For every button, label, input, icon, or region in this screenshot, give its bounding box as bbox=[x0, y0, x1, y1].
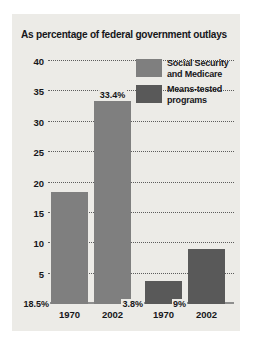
x-tick-label: 1970 bbox=[153, 309, 174, 320]
bar-value-label: 18.5% bbox=[22, 299, 50, 309]
y-tick-label: 15 bbox=[33, 207, 44, 218]
gridline-25: 25 bbox=[48, 151, 234, 152]
y-tick-label: 35 bbox=[33, 86, 44, 97]
y-tick-label: 5 bbox=[39, 268, 44, 279]
legend-item-label: Social Security and Medicare bbox=[167, 58, 229, 79]
bar-social-security-1970[interactable]: 18.5% 1970 bbox=[51, 192, 88, 304]
legend-label-line2: programs bbox=[167, 95, 207, 105]
gridline-30: 30 bbox=[48, 121, 234, 122]
x-tick-label: 2002 bbox=[196, 309, 217, 320]
legend-item-label: Means-tested programs bbox=[167, 84, 222, 105]
y-tick-label: 10 bbox=[33, 238, 44, 249]
y-tick-label: 25 bbox=[33, 147, 44, 158]
legend-label-line1: Social Security bbox=[167, 58, 229, 68]
y-tick-label: 20 bbox=[33, 177, 44, 188]
bar-social-security-2002[interactable]: 33.4% 2002 bbox=[94, 101, 131, 304]
chart-title: As percentage of federal government outl… bbox=[21, 28, 227, 40]
y-tick-label: 40 bbox=[33, 56, 44, 67]
chart-legend: Social Security and Medicare Means-teste… bbox=[136, 58, 240, 110]
legend-item-social-security[interactable]: Social Security and Medicare bbox=[136, 58, 240, 79]
bar-value-label: 3.8% bbox=[121, 299, 144, 309]
legend-label-line2: and Medicare bbox=[167, 69, 222, 79]
bar-means-tested-2002[interactable]: 9% 2002 bbox=[188, 249, 225, 304]
legend-swatch-icon bbox=[136, 59, 162, 77]
legend-item-means-tested[interactable]: Means-tested programs bbox=[136, 84, 240, 105]
bar-value-label: 9% bbox=[172, 299, 187, 309]
chart-panel: As percentage of federal government outl… bbox=[12, 14, 240, 331]
legend-swatch-icon bbox=[136, 85, 162, 103]
x-tick-label: 1970 bbox=[59, 309, 80, 320]
legend-label-line1: Means-tested bbox=[167, 84, 222, 94]
x-tick-label: 2002 bbox=[102, 309, 123, 320]
bar-value-label: 33.4% bbox=[99, 90, 127, 100]
y-tick-label: 30 bbox=[33, 116, 44, 127]
gridline-20: 20 bbox=[48, 182, 234, 183]
